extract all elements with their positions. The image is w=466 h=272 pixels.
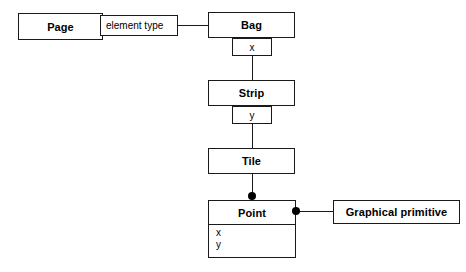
connector-point-to-graphical-primitive [295,211,334,212]
class-title-point: Point [209,201,295,224]
attribute-point-x: x [216,227,295,239]
label-strip-index-y-text: y [250,110,255,121]
class-box-page[interactable]: Page [18,13,103,40]
label-element-type-text: element type [106,20,163,31]
label-strip-index-y: y [232,106,272,124]
connector-index-x-to-strip [252,55,253,81]
attribute-point-y: y [216,239,295,251]
composition-dot-point-graphical-primitive [292,207,300,215]
class-box-strip[interactable]: Strip [208,80,295,106]
label-bag-index-x: x [232,38,272,56]
class-attributes-point: x y [209,224,295,253]
class-box-tile[interactable]: Tile [208,148,295,174]
label-element-type: element type [100,15,178,36]
class-box-bag[interactable]: Bag [208,12,295,38]
class-title-graphical-primitive: Graphical primitive [334,201,459,223]
class-box-point[interactable]: Point x y [208,200,296,258]
class-diagram-canvas: Page element type Bag x Strip y Tile Poi… [0,0,466,272]
class-title-page: Page [19,14,102,39]
class-title-bag: Bag [209,13,294,37]
connector-elementtype-to-bag [176,25,210,26]
class-title-strip: Strip [209,81,294,105]
connector-index-y-to-tile [252,123,253,149]
composition-dot-tile-point [248,192,256,200]
class-title-tile: Tile [209,149,294,173]
label-bag-index-x-text: x [250,42,255,53]
class-box-graphical-primitive[interactable]: Graphical primitive [333,200,460,224]
